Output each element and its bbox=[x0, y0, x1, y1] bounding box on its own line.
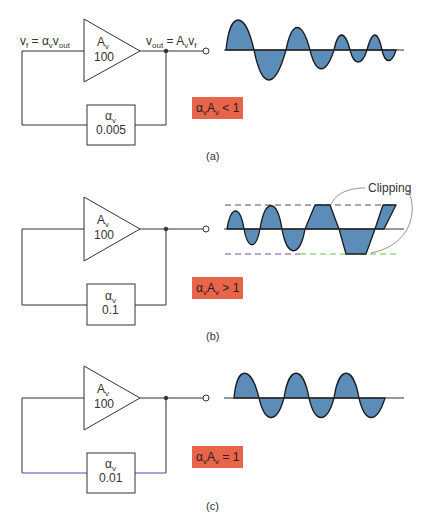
waveform-c bbox=[224, 373, 404, 417]
gain-value-a: 100 bbox=[94, 50, 114, 64]
feedback-value-c: 0.01 bbox=[99, 471, 123, 485]
gain-value-b: 100 bbox=[94, 228, 114, 242]
output-equation-a: vout = Avvf bbox=[146, 34, 197, 50]
caption-a: (a) bbox=[206, 150, 219, 162]
condition-badge-b: αvAv > 1 bbox=[192, 277, 243, 299]
caption-b: (b) bbox=[206, 330, 219, 342]
caption-c: (c) bbox=[206, 500, 219, 512]
feedback-value-a: 0.005 bbox=[96, 123, 126, 137]
waveform-b bbox=[224, 205, 404, 254]
condition-badge-a: αvAv < 1 bbox=[192, 97, 243, 119]
input-equation-a: vf = αvvout bbox=[20, 34, 71, 50]
feedback-value-b: 0.1 bbox=[102, 303, 119, 317]
clipping-label: Clipping bbox=[368, 181, 411, 195]
condition-badge-c: αvAv = 1 bbox=[192, 446, 243, 468]
gain-value-c: 100 bbox=[94, 397, 114, 411]
waveform-a bbox=[224, 20, 404, 80]
